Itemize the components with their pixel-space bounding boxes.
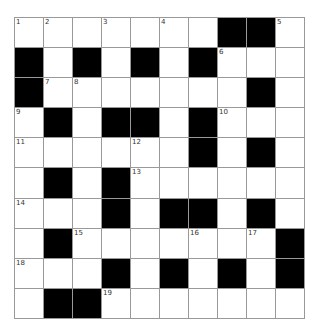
block-cell	[188, 107, 217, 137]
block-cell	[246, 77, 275, 107]
letter-cell[interactable]	[188, 167, 217, 197]
clue-number: 7	[45, 78, 49, 86]
letter-cell[interactable]: 10	[217, 107, 246, 137]
letter-cell[interactable]	[159, 47, 188, 77]
block-cell	[43, 107, 72, 137]
letter-cell[interactable]: 13	[130, 167, 159, 197]
letter-cell[interactable]	[43, 258, 72, 288]
block-cell	[43, 167, 72, 197]
letter-cell[interactable]	[14, 228, 43, 258]
letter-cell[interactable]	[101, 77, 130, 107]
block-cell	[188, 198, 217, 228]
letter-cell[interactable]	[275, 77, 304, 107]
letter-cell[interactable]: 7	[43, 77, 72, 107]
letter-cell[interactable]	[188, 77, 217, 107]
letter-cell[interactable]	[188, 17, 217, 47]
letter-cell[interactable]	[130, 228, 159, 258]
letter-cell[interactable]	[246, 167, 275, 197]
clue-number: 4	[161, 18, 165, 26]
block-cell	[130, 107, 159, 137]
letter-cell[interactable]	[72, 17, 101, 47]
letter-cell[interactable]	[130, 288, 159, 318]
letter-cell[interactable]	[188, 288, 217, 318]
letter-cell[interactable]	[101, 47, 130, 77]
letter-cell[interactable]: 14	[14, 198, 43, 228]
block-cell	[275, 258, 304, 288]
letter-cell[interactable]: 8	[72, 77, 101, 107]
letter-cell[interactable]: 9	[14, 107, 43, 137]
letter-cell[interactable]	[14, 288, 43, 318]
letter-cell[interactable]	[159, 137, 188, 167]
letter-cell[interactable]	[101, 137, 130, 167]
letter-cell[interactable]	[159, 228, 188, 258]
letter-cell[interactable]: 19	[101, 288, 130, 318]
letter-cell[interactable]	[72, 137, 101, 167]
letter-cell[interactable]	[275, 167, 304, 197]
letter-cell[interactable]	[275, 198, 304, 228]
block-cell	[72, 47, 101, 77]
letter-cell[interactable]	[130, 198, 159, 228]
block-cell	[101, 258, 130, 288]
letter-cell[interactable]	[72, 258, 101, 288]
clue-number: 2	[45, 18, 49, 26]
letter-cell[interactable]	[217, 137, 246, 167]
letter-cell[interactable]	[217, 198, 246, 228]
letter-cell[interactable]	[217, 228, 246, 258]
letter-cell[interactable]: 1	[14, 17, 43, 47]
letter-cell[interactable]: 5	[275, 17, 304, 47]
clue-number: 5	[277, 18, 281, 26]
letter-cell[interactable]: 4	[159, 17, 188, 47]
block-cell	[101, 167, 130, 197]
letter-cell[interactable]: 11	[14, 137, 43, 167]
block-cell	[43, 228, 72, 258]
block-cell	[159, 198, 188, 228]
letter-cell[interactable]	[72, 167, 101, 197]
block-cell	[246, 17, 275, 47]
letter-cell[interactable]	[275, 47, 304, 77]
block-cell	[188, 47, 217, 77]
letter-cell[interactable]	[43, 198, 72, 228]
clue-number: 11	[16, 138, 25, 146]
letter-cell[interactable]	[130, 17, 159, 47]
letter-cell[interactable]	[275, 107, 304, 137]
letter-cell[interactable]	[217, 167, 246, 197]
letter-cell[interactable]: 15	[72, 228, 101, 258]
letter-cell[interactable]: 16	[188, 228, 217, 258]
letter-cell[interactable]	[130, 77, 159, 107]
letter-cell[interactable]	[246, 288, 275, 318]
letter-cell[interactable]: 3	[101, 17, 130, 47]
clue-number: 9	[16, 108, 20, 116]
letter-cell[interactable]	[43, 137, 72, 167]
letter-cell[interactable]	[217, 77, 246, 107]
letter-cell[interactable]: 18	[14, 258, 43, 288]
letter-cell[interactable]	[188, 258, 217, 288]
letter-cell[interactable]	[43, 47, 72, 77]
block-cell	[101, 107, 130, 137]
letter-cell[interactable]	[159, 288, 188, 318]
letter-cell[interactable]	[14, 167, 43, 197]
letter-cell[interactable]	[246, 47, 275, 77]
letter-cell[interactable]: 2	[43, 17, 72, 47]
letter-cell[interactable]	[246, 107, 275, 137]
block-cell	[275, 228, 304, 258]
letter-cell[interactable]	[72, 107, 101, 137]
letter-cell[interactable]	[130, 258, 159, 288]
letter-cell[interactable]	[101, 228, 130, 258]
letter-cell[interactable]	[246, 258, 275, 288]
letter-cell[interactable]	[159, 77, 188, 107]
letter-cell[interactable]: 6	[217, 47, 246, 77]
letter-cell[interactable]: 12	[130, 137, 159, 167]
letter-cell[interactable]	[159, 167, 188, 197]
letter-cell[interactable]	[72, 198, 101, 228]
block-cell	[246, 198, 275, 228]
block-cell	[43, 288, 72, 318]
block-cell	[188, 137, 217, 167]
letter-cell[interactable]	[217, 288, 246, 318]
clue-number: 13	[132, 168, 141, 176]
letter-cell[interactable]: 17	[246, 228, 275, 258]
block-cell	[14, 47, 43, 77]
letter-cell[interactable]	[275, 137, 304, 167]
letter-cell[interactable]	[159, 107, 188, 137]
clue-number: 3	[103, 18, 107, 26]
letter-cell[interactable]	[275, 288, 304, 318]
